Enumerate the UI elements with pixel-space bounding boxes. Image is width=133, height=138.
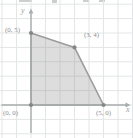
vertex-dot: [72, 45, 76, 49]
vertex-label: (0, 5): [5, 26, 20, 34]
vertex-label: (3, 4): [84, 31, 99, 39]
y-axis-label: y: [21, 7, 25, 15]
y-axis-arrowhead-icon: [29, 9, 34, 14]
vertex-dot: [29, 31, 33, 35]
vertex-label: (5, 0): [96, 109, 111, 117]
vertex-dot: [29, 103, 33, 107]
x-axis-label: x: [126, 106, 130, 114]
vertex-dot: [101, 103, 105, 107]
vertex-label: (0, 0): [3, 109, 18, 117]
coordinate-plane: [0, 0, 133, 138]
figure-canvas: (0, 5) (3, 4) (0, 0) (5, 0) x y: [0, 0, 133, 138]
region-polygon: [31, 33, 104, 105]
